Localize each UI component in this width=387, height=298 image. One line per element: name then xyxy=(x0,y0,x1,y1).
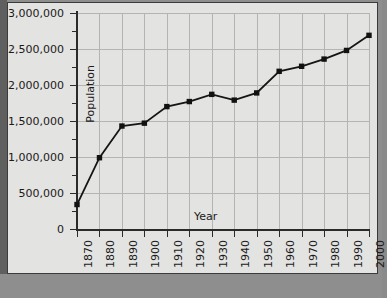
data-point-marker xyxy=(276,69,281,74)
data-point-marker xyxy=(74,202,79,207)
data-point-marker xyxy=(209,92,214,97)
data-point-marker xyxy=(299,64,304,69)
data-series-layer xyxy=(8,3,379,275)
data-point-marker xyxy=(254,90,259,95)
data-point-marker xyxy=(232,97,237,102)
data-point-marker xyxy=(366,33,371,38)
data-point-marker xyxy=(142,120,147,125)
data-point-marker xyxy=(119,123,124,128)
background-shadow-bottom xyxy=(0,274,382,298)
data-point-marker xyxy=(97,155,102,160)
chart-panel: 0500,0001,000,0001,500,0002,000,0002,500… xyxy=(7,2,378,274)
data-point-marker xyxy=(187,99,192,104)
data-point-marker xyxy=(321,56,326,61)
data-point-marker xyxy=(164,104,169,109)
data-point-marker xyxy=(344,48,349,53)
